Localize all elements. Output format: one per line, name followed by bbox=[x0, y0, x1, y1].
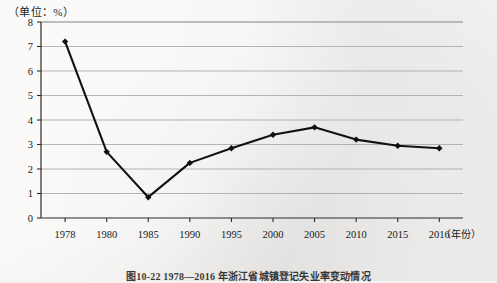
gridlines-group bbox=[41, 22, 463, 194]
x-axis-unit-label: （年份） bbox=[441, 228, 481, 240]
x-tick-label: 2005 bbox=[304, 229, 325, 240]
y-axis: 012345678 bbox=[28, 17, 41, 224]
x-tick-label: 2000 bbox=[262, 229, 283, 240]
data-point-marker bbox=[436, 145, 442, 151]
data-point-marker bbox=[353, 136, 359, 142]
y-tick-label: 3 bbox=[28, 139, 33, 150]
y-tick-label: 5 bbox=[28, 90, 33, 101]
x-tick-label: 2010 bbox=[346, 229, 367, 240]
x-tick-label: 1978 bbox=[55, 229, 76, 240]
data-point-marker bbox=[270, 132, 276, 138]
x-tick-label: 1985 bbox=[138, 229, 159, 240]
x-tick-label: 2015 bbox=[387, 229, 408, 240]
data-point-markers bbox=[62, 38, 443, 200]
unemployment-rate-line bbox=[65, 42, 439, 198]
x-tick-label: 1995 bbox=[221, 229, 242, 240]
y-tick-label: 7 bbox=[28, 41, 33, 52]
data-point-marker bbox=[228, 145, 234, 151]
data-point-marker bbox=[395, 143, 401, 149]
y-tick-label: 2 bbox=[28, 164, 33, 175]
x-axis: 1978198019851990199520002005201020152016… bbox=[41, 218, 481, 240]
x-tick-label: 1990 bbox=[179, 229, 200, 240]
x-tick-marks bbox=[65, 218, 439, 222]
y-tick-labels: 012345678 bbox=[28, 17, 34, 224]
y-tick-label: 4 bbox=[28, 115, 34, 126]
y-tick-label: 8 bbox=[28, 17, 33, 28]
data-point-marker bbox=[62, 38, 68, 44]
y-tick-label: 6 bbox=[28, 66, 33, 77]
figure-caption: 图10-22 1978—2016 年浙江省城镇登记失业率变动情况 bbox=[0, 268, 497, 283]
data-point-marker bbox=[311, 124, 317, 130]
y-tick-label: 0 bbox=[28, 213, 33, 224]
x-tick-labels: 1978198019851990199520002005201020152016 bbox=[55, 229, 450, 240]
x-tick-label: 1980 bbox=[96, 229, 117, 240]
y-tick-label: 1 bbox=[28, 188, 33, 199]
